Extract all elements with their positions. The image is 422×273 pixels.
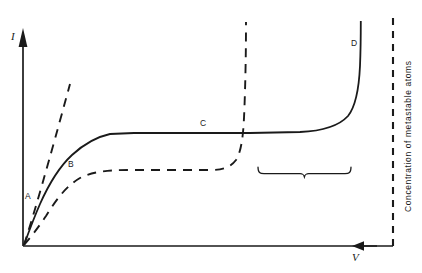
curve-label-a: A: [25, 192, 31, 201]
x-axis-label: V: [352, 252, 359, 263]
discharge-characteristic-figure: I V A B C D Concentration of metastable …: [0, 0, 422, 273]
y-axis-label: I: [11, 31, 15, 42]
y-axis-arrowhead: [19, 28, 28, 47]
chart-canvas: [0, 0, 422, 273]
curve-label-b: B: [68, 160, 74, 169]
curve-label-c: C: [200, 119, 206, 128]
range-brace: [258, 167, 351, 177]
discharge-current-curve: [24, 21, 361, 245]
y-axis-right-label: Concentration of metastable atoms: [404, 60, 413, 212]
curve-label-d: D: [351, 39, 357, 48]
axis-group: [19, 28, 393, 251]
